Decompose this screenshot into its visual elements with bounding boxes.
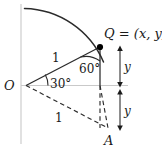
label-point-a: A — [103, 133, 113, 148]
angle-60-arc-group — [81, 56, 101, 61]
label-radius-lower: 1 — [55, 111, 63, 125]
unit-circle-arc — [25, 9, 104, 63]
geometry-figure: O Q = (x, y) A 1 1 30° 60° y y — [0, 0, 162, 148]
label-angle-60: 60° — [79, 62, 100, 76]
label-radius-upper: 1 — [52, 51, 60, 65]
label-angle-30: 30° — [50, 77, 71, 91]
segment-axis-to-a-group — [100, 86, 108, 129]
angle-60-arc — [81, 56, 101, 61]
label-point-q: Q = (x, y) — [104, 26, 162, 41]
measure-arrow-y-upper-head-bottom — [117, 82, 123, 88]
segment-axis-to-a-line — [100, 86, 108, 129]
angle-30-arc — [45, 75, 48, 86]
angle-30-arc-group — [45, 75, 48, 86]
label-y-lower: y — [123, 104, 131, 118]
radius-oa-line — [26, 86, 108, 129]
radius-oa-group — [26, 86, 108, 129]
geometry-diagram-canvas: O Q = (x, y) A 1 1 30° 60° y y — [0, 0, 162, 148]
measure-arrow-y-lower-head-top — [117, 89, 123, 95]
measure-arrow-y-lower-head-bottom — [117, 126, 123, 132]
measure-arrow-y-lower — [117, 89, 123, 131]
unit-circle-arc-group — [25, 9, 104, 63]
label-y-upper: y — [123, 60, 131, 74]
label-origin: O — [4, 78, 15, 93]
point-q-marker — [97, 44, 103, 50]
measure-arrow-y-upper-head-top — [117, 46, 123, 52]
point-markers-group — [97, 44, 103, 50]
measure-arrow-y-upper — [117, 46, 123, 88]
